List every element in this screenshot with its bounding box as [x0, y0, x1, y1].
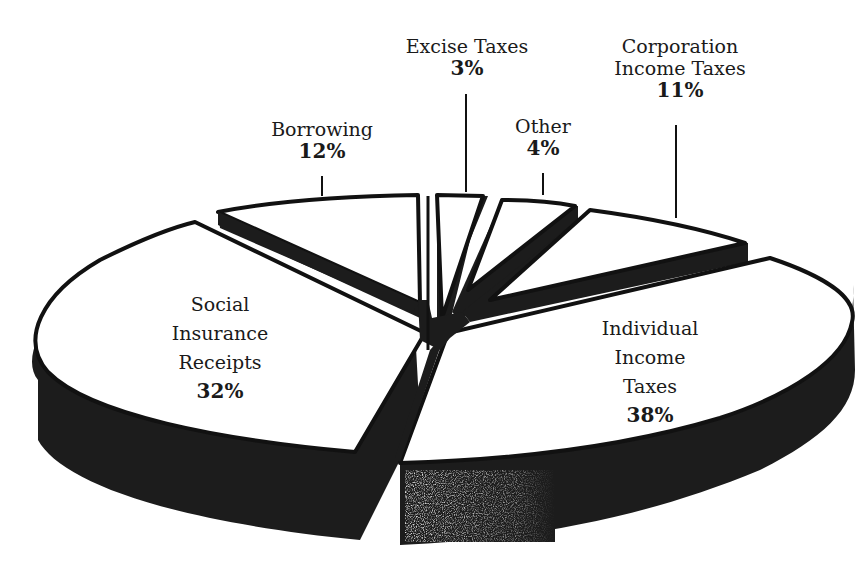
- label-individual-income: Individual Income Taxes 38%: [585, 314, 715, 430]
- label-corporation: Corporation Income Taxes 11%: [595, 35, 765, 101]
- label-social-pct: 32%: [160, 377, 280, 406]
- label-individual-name-3: Taxes: [585, 372, 715, 401]
- label-other-pct: 4%: [500, 137, 586, 159]
- label-excise-name: Excise Taxes: [401, 35, 533, 57]
- label-social-name-2: Insurance: [160, 319, 280, 348]
- label-borrowing: Borrowing 12%: [262, 118, 382, 162]
- label-individual-pct: 38%: [585, 401, 715, 430]
- label-corporation-name-1: Corporation: [595, 35, 765, 57]
- label-social-insurance: Social Insurance Receipts 32%: [160, 290, 280, 406]
- label-excise: Excise Taxes 3%: [401, 35, 533, 79]
- label-social-name-1: Social: [160, 290, 280, 319]
- label-corporation-name-2: Income Taxes: [595, 57, 765, 79]
- label-borrowing-name: Borrowing: [262, 118, 382, 140]
- label-corporation-pct: 11%: [595, 79, 765, 101]
- label-individual-name-1: Individual: [585, 314, 715, 343]
- label-other-name: Other: [500, 115, 586, 137]
- label-social-name-3: Receipts: [160, 348, 280, 377]
- label-borrowing-pct: 12%: [262, 140, 382, 162]
- label-excise-pct: 3%: [401, 57, 533, 79]
- label-individual-name-2: Income: [585, 343, 715, 372]
- label-other: Other 4%: [500, 115, 586, 159]
